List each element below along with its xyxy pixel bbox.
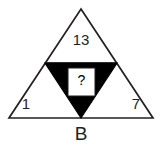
top-triangle-value: 13 bbox=[64, 32, 98, 47]
center-question-mark: ? bbox=[68, 73, 95, 87]
bottom-left-triangle-value: 1 bbox=[16, 96, 36, 111]
bottom-right-triangle-value: 7 bbox=[126, 96, 146, 111]
triangle-puzzle-figure: 13 1 7 ? B bbox=[0, 0, 163, 147]
figure-label-b: B bbox=[61, 124, 101, 143]
